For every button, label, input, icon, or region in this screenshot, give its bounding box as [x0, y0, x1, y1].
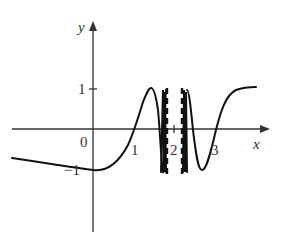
curve-osc-right — [183, 90, 187, 172]
origin-label: 0 — [80, 134, 88, 150]
curve-left-branch — [12, 88, 166, 172]
y-axis-arrow-icon — [89, 21, 97, 31]
curve-osc-left — [161, 90, 166, 172]
y-tick-label-minus1: −1 — [64, 162, 80, 178]
function-graph: y x 0 1 2 3 1 −1 — [0, 0, 282, 243]
x-axis-label: x — [252, 136, 260, 152]
x-axis-arrow-icon — [260, 125, 270, 133]
x-tick-label-2: 2 — [170, 142, 178, 158]
y-axis-label: y — [76, 19, 85, 35]
x-tick-label-1: 1 — [131, 142, 139, 158]
curve — [12, 87, 256, 172]
x-tick-label-3: 3 — [211, 142, 219, 158]
axes — [12, 28, 262, 232]
y-tick-label-1: 1 — [78, 81, 86, 97]
